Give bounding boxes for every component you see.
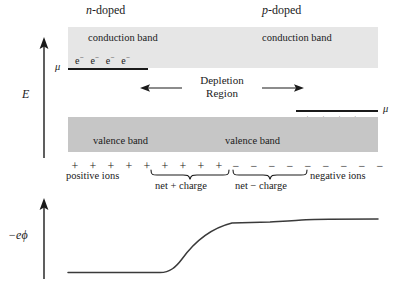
pn-junction-band-diagram: n-doped p-doped E conduction band conduc…: [0, 0, 402, 281]
potential-curve: [0, 0, 402, 281]
